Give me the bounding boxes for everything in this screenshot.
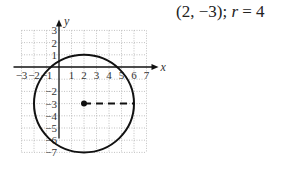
x-tick-label: 4 <box>106 69 112 81</box>
y-tick-label: 1 <box>52 49 58 61</box>
x-tick-label: −3 <box>16 69 28 81</box>
y-tick-label: −2 <box>45 85 57 97</box>
x-tick-label: 2 <box>81 69 87 81</box>
tick-labels: −3−2−11234567321−2−3−4−5−6−7xy <box>16 14 167 158</box>
y-tick-label: −3 <box>45 98 57 110</box>
x-tick-label: 1 <box>69 69 75 81</box>
y-tick-label: −5 <box>45 122 57 134</box>
y-tick-label: 3 <box>52 24 58 36</box>
y-tick-label: −7 <box>45 146 57 158</box>
center-point <box>81 101 87 107</box>
x-axis-label: x <box>160 60 167 74</box>
x-tick-label: 7 <box>144 69 150 81</box>
center-text: (2, −3); <box>176 2 227 21</box>
circle-graph: −3−2−11234567321−2−3−4−5−6−7xy <box>0 0 300 173</box>
equation-caption: (2, −3); r = 4 <box>176 2 265 22</box>
x-tick-label: −2 <box>28 69 40 81</box>
x-tick-label: 3 <box>94 69 100 81</box>
x-tick-label: 6 <box>131 69 137 81</box>
y-axis-label: y <box>63 14 70 28</box>
grid <box>22 30 147 152</box>
y-tick-label: −4 <box>45 110 57 122</box>
radius-value: = 4 <box>238 2 265 21</box>
y-tick-label: 2 <box>52 37 58 49</box>
x-axis-arrow-icon <box>152 64 159 70</box>
